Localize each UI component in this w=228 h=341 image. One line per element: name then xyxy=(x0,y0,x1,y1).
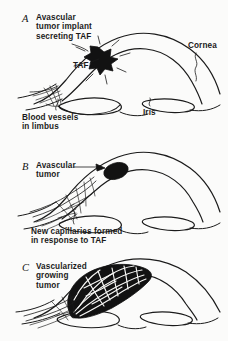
diagram-artwork: .ink { fill:none; stroke:#1b1b1b; stroke… xyxy=(0,0,228,341)
panel-b-caption: Avascular tumor xyxy=(36,161,76,180)
panel-b-letter: B xyxy=(22,162,28,173)
panel-c-letter: C xyxy=(22,263,29,274)
label-taf: TAF xyxy=(73,61,89,70)
leader-iris xyxy=(149,98,150,106)
label-blood-vessels-in-limbus: Blood vessels in limbus xyxy=(22,113,78,132)
figure-container: .ink { fill:none; stroke:#1b1b1b; stroke… xyxy=(0,0,228,341)
leader-cornea xyxy=(195,53,197,81)
panel-c-caption: Vascularized growing tumor xyxy=(36,262,87,290)
panel-a-letter: A xyxy=(22,14,28,25)
label-cornea: Cornea xyxy=(188,41,217,50)
panel-a-caption: Avascular tumor implant secreting TAF xyxy=(36,13,92,41)
label-iris: Iris xyxy=(143,108,156,117)
tumor-implant-a xyxy=(74,36,130,84)
label-new-capillaries: New capillaries formed in response to TA… xyxy=(31,227,122,246)
leader-tumor-a xyxy=(72,44,88,51)
